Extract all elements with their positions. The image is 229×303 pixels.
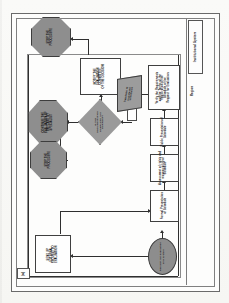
- swimlane-header-region: Region: [186, 78, 198, 104]
- node-label: STOP THE PROCEDURE: [46, 151, 51, 168]
- connector-line: [68, 122, 78, 123]
- connector-line: [72, 39, 88, 40]
- connector-line: [60, 211, 148, 212]
- node-public-presentation-schedule[interactable]: Public Presentation of Schedule: [150, 118, 179, 146]
- connector-arrowhead: [160, 230, 164, 233]
- connector-line: [72, 256, 150, 257]
- node-database-registered-schedules[interactable]: Database of registered schedules: [117, 75, 142, 112]
- node-label: SEND UP EXTERNAL REQUEST TO EVALUATION: [48, 245, 59, 263]
- node-label: IS THE DOCUMENTATION COMPLETE AND CORREC…: [95, 111, 105, 133]
- connector-line: [60, 211, 61, 234]
- connector-line: [88, 39, 89, 55]
- swimlane-divider: [186, 18, 187, 285]
- node-notify-evaluation-committee[interactable]: NOTIFY THE EVALUATION COMMITTEE OF THE D…: [80, 58, 121, 95]
- region-label: Region: [190, 86, 194, 96]
- node-label: NOTIFY THE EVALUATION COMMITTEE OF THE D…: [95, 64, 106, 88]
- node-formal-presentation-schedule[interactable]: Formal Presentation of Schedule: [150, 190, 179, 222]
- node-start-request-evaluation[interactable]: Request for evaluation of a system: [148, 238, 177, 275]
- node-label: Assessment of rights and responsibility …: [161, 151, 169, 185]
- figure-number-label: (a): [22, 271, 26, 275]
- connector-line: [122, 122, 132, 123]
- swimlane-header-label: Institutional System: [194, 32, 198, 63]
- connector-line: [28, 276, 178, 277]
- swimlane-header-institutional-system: Institutional System: [188, 20, 203, 74]
- node-verify-requirements[interactable]: Verify the Requirements and the Terms of…: [148, 65, 180, 110]
- node-send-external-request[interactable]: SEND UP EXTERNAL REQUEST TO EVALUATION: [35, 235, 71, 273]
- node-stop-procedure-top[interactable]: STOP THE PROCEDURE: [31, 17, 71, 57]
- node-label: Public Presentation of Schedule: [162, 117, 167, 147]
- node-label: Verify the Requirements and the Terms of…: [157, 71, 170, 103]
- figure-page: Institutional System Region: [0, 0, 229, 303]
- node-label: CONTINUE THE EVALUATION OF THE CASE BY S…: [43, 111, 54, 133]
- node-label: Formal Presentation of Schedule: [162, 193, 167, 220]
- figure-number-box: (a): [17, 268, 30, 279]
- node-assessment-rights-responsibility[interactable]: Assessment of rights and responsibility …: [150, 154, 179, 182]
- node-label: STOP THE PROCEDURE: [48, 28, 53, 45]
- connector-line: [28, 55, 29, 276]
- node-label: Request for evaluation of a system: [160, 242, 165, 271]
- node-label: Database of registered schedules: [124, 85, 134, 102]
